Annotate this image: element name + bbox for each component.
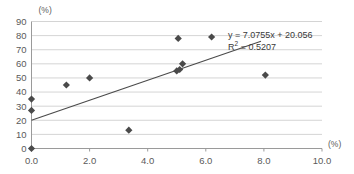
y-tick-label: 70 xyxy=(16,44,27,55)
y-tick-label: 60 xyxy=(16,58,27,69)
data-point-marker xyxy=(28,107,35,114)
y-tick-label: 0 xyxy=(21,143,26,154)
x-tick-label: 2.0 xyxy=(83,155,96,166)
y-tick-label: 10 xyxy=(16,129,27,140)
axis-unit-labels: (%)(%) xyxy=(39,5,342,149)
data-point-marker xyxy=(125,127,132,134)
data-point-marker xyxy=(28,145,35,152)
r-squared-value: = 0.5207 xyxy=(238,42,276,52)
y-axis-tick-labels: 0102030405060708090 xyxy=(16,16,27,154)
y-tick-label: 90 xyxy=(16,16,27,27)
y-tick-label: 30 xyxy=(16,101,27,112)
y-tick-label: 20 xyxy=(16,115,27,126)
scatter-chart: 0102030405060708090 0.02.04.06.08.010.0 … xyxy=(0,0,354,174)
trendline xyxy=(32,41,261,120)
y-tick-label: 50 xyxy=(16,72,27,83)
trendline-equation-label: y = 7.0755x + 20.056 xyxy=(228,30,313,40)
x-axis-tick-labels: 0.02.04.06.08.010.0 xyxy=(25,155,331,166)
data-point-marker xyxy=(86,74,93,81)
y-tick-label: 40 xyxy=(16,86,27,97)
x-tick-label: 8.0 xyxy=(257,155,270,166)
data-point-marker xyxy=(208,33,215,40)
data-point-marker xyxy=(63,81,70,88)
x-tick-label: 4.0 xyxy=(141,155,154,166)
chart-canvas: 0102030405060708090 0.02.04.06.08.010.0 … xyxy=(0,0,354,174)
x-tick-label: 10.0 xyxy=(313,155,332,166)
x-axis-unit-label: (%) xyxy=(328,139,341,149)
data-point-marker xyxy=(28,96,35,103)
x-tick-label: 0.0 xyxy=(25,155,38,166)
y-axis-unit-label: (%) xyxy=(39,5,52,15)
annotation-group: y = 7.0755x + 20.056R2 = 0.5207 xyxy=(228,30,313,52)
x-tick-label: 6.0 xyxy=(199,155,212,166)
y-tick-label: 80 xyxy=(16,30,27,41)
trendline-group xyxy=(32,41,261,120)
